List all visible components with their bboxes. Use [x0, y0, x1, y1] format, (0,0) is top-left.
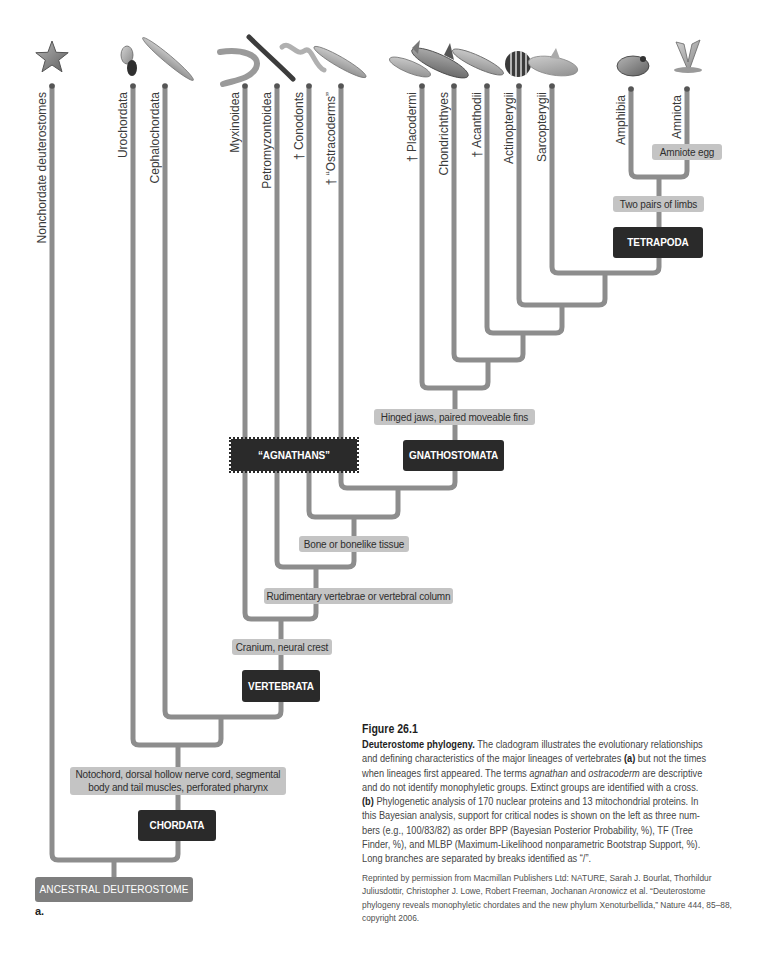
leaf-tip-dots — [49, 83, 690, 92]
character-label: Hinged jaws, paired moveable fins — [381, 411, 528, 424]
character-label: Two pairs of limbs — [620, 198, 697, 211]
root-ancestral-deuterostome: ANCESTRAL DEUTEROSTOME — [35, 877, 193, 902]
branch-cephalochordata — [165, 85, 281, 717]
clade-label: GNATHOSTOMATA — [409, 450, 498, 461]
root-label: ANCESTRAL DEUTEROSTOME — [40, 884, 189, 895]
character-label: Amniote egg — [660, 146, 715, 159]
clade-gnathostomata: GNATHOSTOMATA — [403, 440, 504, 471]
clade-chordata: CHORDATA — [138, 810, 216, 841]
character-two-pairs-of-limbs: Two pairs of limbs — [613, 196, 704, 212]
clade-label: VERTEBRATA — [248, 681, 314, 692]
character-label-line1: Notochord, dorsal hollow nerve cord, seg… — [76, 768, 281, 781]
character-amniote-egg: Amniote egg — [652, 144, 722, 160]
cladogram-branches — [0, 0, 763, 954]
character-label: Bone or bonelike tissue — [304, 538, 405, 551]
branch-urochordata — [133, 85, 221, 745]
clade-vertebrata: VERTEBRATA — [242, 670, 320, 702]
character-vertebrae: Rudimentary vertebrae or vertebral colum… — [264, 588, 453, 604]
clade-agnathans: “AGNATHANS” — [229, 437, 359, 473]
clade-label: CHORDATA — [150, 820, 205, 831]
character-cranium: Cranium, neural crest — [232, 639, 332, 655]
clade-label: TETRAPODA — [627, 237, 688, 248]
branch-ostracoderms — [341, 85, 455, 488]
character-notochord: Notochord, dorsal hollow nerve cord, seg… — [70, 767, 286, 795]
character-bone: Bone or bonelike tissue — [299, 536, 409, 552]
character-label-line2: body and tail muscles, perforated pharyn… — [88, 781, 268, 794]
character-label: Cranium, neural crest — [236, 641, 328, 654]
character-label: Rudimentary vertebrae or vertebral colum… — [267, 590, 451, 603]
branch-amphibia-amniota — [631, 88, 687, 177]
character-hinged-jaws: Hinged jaws, paired moveable fins — [374, 409, 535, 425]
clade-tetrapoda: TETRAPODA — [613, 227, 703, 258]
clade-label: “AGNATHANS” — [258, 450, 330, 461]
